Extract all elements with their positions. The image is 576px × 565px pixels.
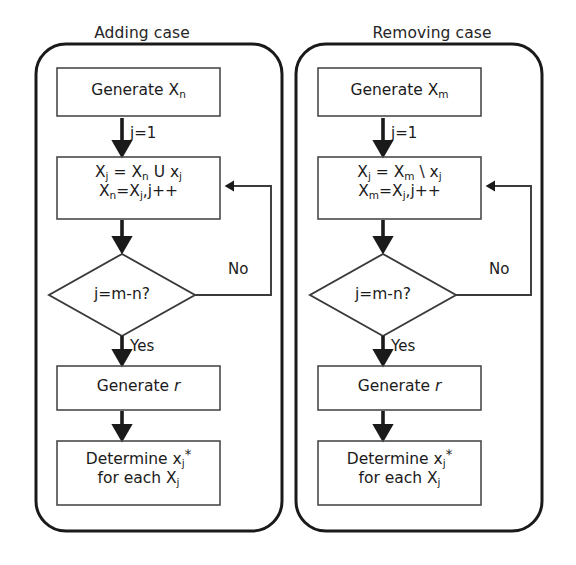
generate-r-text: Generate — [358, 377, 435, 395]
node-label-generate-r: Generate r — [57, 378, 220, 396]
difference-xm: X — [358, 182, 369, 200]
node-label-union-line2: Xn=Xj,j++ — [57, 182, 220, 201]
generate-r-text: Generate — [97, 377, 174, 395]
subscript-j: j — [177, 475, 180, 487]
determine-text: Determine x — [347, 450, 443, 468]
union-xn: X — [99, 182, 110, 200]
difference-increment: ,j++ — [406, 182, 441, 200]
node-label-generate-xm: Generate Xm — [318, 82, 481, 100]
union-eq-xj: =X — [116, 182, 140, 200]
edge-label-j-equals-1: j=1 — [130, 126, 156, 141]
node-label-determine-removing: Determine xj* for each Xj — [318, 450, 481, 487]
star-icon: * — [446, 447, 453, 462]
subscript-j: j — [179, 170, 182, 182]
edge-decision-no-loop-removing — [456, 186, 531, 295]
determine-text: Determine x — [86, 450, 182, 468]
subscript-j: j — [438, 475, 441, 487]
node-label-generate-r-removing: Generate r — [318, 378, 481, 396]
edge-label-yes: Yes — [130, 339, 154, 354]
node-label-union-line1: Xj = Xn U xj — [57, 163, 220, 182]
subscript-m: m — [438, 88, 448, 100]
edge-decision-no-loop — [195, 186, 271, 295]
difference-xj: X — [357, 163, 368, 181]
union-xj: X — [95, 163, 106, 181]
subscript-m: m — [369, 188, 379, 200]
union-op-xj: U x — [149, 163, 179, 181]
generate-r-variable: r — [174, 377, 180, 395]
node-label-decision-removing: j=m-n? — [318, 286, 448, 304]
node-label-generate-xn-text: Generate X — [91, 81, 179, 99]
node-label-determine-line2: for each Xj — [57, 469, 220, 488]
node-label-determine-line1: Determine xj* — [57, 450, 220, 469]
subscript-n: n — [142, 170, 149, 182]
union-eq-xn: = X — [109, 163, 142, 181]
union-increment: ,j++ — [143, 182, 178, 200]
difference-eq-xm: = X — [371, 163, 404, 181]
node-label-difference: Xj = Xm \ xj Xm=Xj,j++ — [318, 163, 481, 200]
flowchart-figure: Adding case Removing case — [0, 0, 576, 565]
node-label-determine-removing-line1: Determine xj* — [318, 450, 481, 469]
difference-eq-xj: =X — [379, 182, 403, 200]
node-label-difference-line1: Xj = Xm \ xj — [318, 163, 481, 182]
generate-r-variable: r — [435, 377, 441, 395]
node-label-determine: Determine xj* for each Xj — [57, 450, 220, 487]
edge-label-yes-removing: Yes — [391, 339, 415, 354]
node-label-union: Xj = Xn U xj Xn=Xj,j++ — [57, 163, 220, 200]
node-label-difference-line2: Xm=Xj,j++ — [318, 182, 481, 201]
edge-label-no-removing: No — [489, 262, 509, 277]
node-label-determine-removing-line2: for each Xj — [318, 469, 481, 488]
edge-label-no: No — [228, 262, 248, 277]
node-label-decision: j=m-n? — [57, 286, 187, 304]
node-label-generate-xm-text: Generate X — [350, 81, 438, 99]
subscript-n: n — [179, 88, 186, 100]
subscript-j: j — [439, 170, 442, 182]
star-icon: * — [185, 447, 192, 462]
node-label-generate-xn: Generate Xn — [57, 82, 220, 100]
difference-op-xj: \ x — [415, 163, 439, 181]
subscript-m: m — [404, 170, 414, 182]
determine-foreach-text: for each X — [358, 469, 437, 487]
edge-label-j-equals-1-removing: j=1 — [391, 126, 417, 141]
determine-foreach-text: for each X — [97, 469, 176, 487]
